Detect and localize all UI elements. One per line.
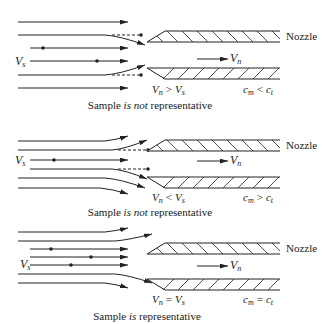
streamlines — [18, 136, 150, 194]
streamlines — [18, 228, 152, 288]
particle-dot-icon — [146, 167, 150, 171]
panel-caption: Sample is not representative — [88, 99, 212, 111]
particle-dot-icon — [41, 46, 45, 50]
velocity-relation: Vn>Vs — [152, 83, 185, 97]
panel-caption: Sample is representative — [93, 310, 201, 322]
streamline-arrow-icon — [18, 234, 152, 241]
free-stream-velocity-label: Vs — [20, 257, 30, 272]
nozzle-velocity-label: Vn — [230, 51, 241, 66]
particle-dot-icon — [95, 59, 99, 63]
streamline-arrow-icon — [18, 228, 128, 232]
particle-dot-icon — [69, 263, 73, 267]
diverging-streamline-arrow-icon — [18, 136, 128, 141]
converging-streamline-arrow-icon — [18, 35, 145, 45]
diverging-streamline-arrow-icon — [18, 178, 145, 188]
nozzle — [147, 140, 280, 188]
converging-streamline-arrow-icon — [18, 65, 145, 75]
streamline-arrow-icon — [18, 274, 152, 283]
panel-2: Vs Nozzle Vn Vn<Vs cm>ct Sample is not r… — [15, 136, 317, 218]
concentration-relation: cm>ct — [243, 191, 274, 205]
free-stream-velocity-label: Vs — [15, 54, 25, 69]
particle-dot-icon — [139, 73, 143, 77]
isokinetic-sampling-diagram: Vs Nozzle Vn Vn>Vs cm<ct Sample is not r… — [0, 0, 331, 324]
streamline-arrow-icon — [18, 283, 128, 288]
panel-3: Vs Nozzle Vn Vn=Vs cm=ct Sample is repre… — [18, 228, 317, 322]
velocity-relation: Vn=Vs — [152, 293, 185, 307]
concentration-relation: cm<ct — [243, 83, 274, 97]
streamlines — [18, 22, 145, 88]
nozzle-velocity-label: Vn — [230, 153, 241, 168]
diverging-streamline-arrow-icon — [18, 188, 128, 194]
nozzle-label: Nozzle — [286, 242, 317, 254]
nozzle — [147, 31, 280, 79]
panel-caption: Sample is not representative — [88, 206, 212, 218]
particle-dot-icon — [139, 33, 143, 37]
nozzle-label: Nozzle — [286, 30, 317, 42]
panel-1: Vs Nozzle Vn Vn>Vs cm<ct Sample is not r… — [15, 22, 317, 111]
particle-dot-icon — [49, 247, 53, 251]
particle-dot-icon — [52, 158, 56, 162]
free-stream-velocity-label: Vs — [15, 153, 25, 168]
nozzle-label: Nozzle — [286, 139, 317, 151]
velocity-relation: Vn<Vs — [152, 191, 185, 205]
nozzle-velocity-label: Vn — [230, 258, 241, 273]
concentration-relation: cm=ct — [243, 293, 274, 307]
particle-dot-icon — [89, 255, 93, 259]
